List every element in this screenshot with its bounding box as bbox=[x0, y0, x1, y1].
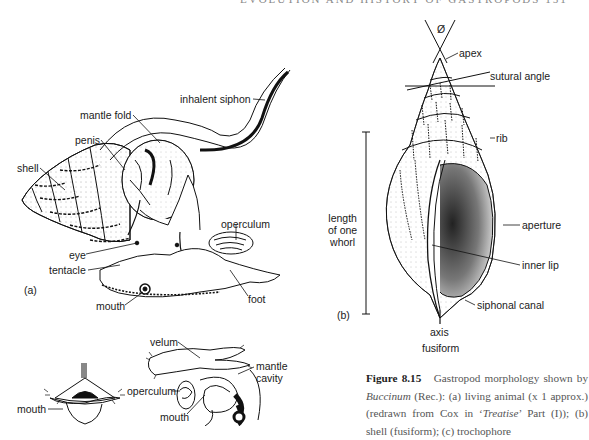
genus-name: Buccinum bbox=[366, 390, 411, 402]
label-mantle-fold: mantle fold bbox=[80, 109, 131, 121]
label-operculum-c: operculum bbox=[127, 385, 176, 397]
panel-b-label: (b) bbox=[337, 309, 350, 321]
label-operculum-a: operculum bbox=[221, 218, 270, 230]
inhalent-siphon-drawing bbox=[200, 72, 288, 150]
label-inhalent-siphon: inhalent siphon bbox=[180, 93, 251, 105]
label-velum: velum bbox=[150, 336, 178, 348]
label-apex: apex bbox=[459, 47, 482, 59]
label-length-of-one-whorl: length of one whorl bbox=[328, 212, 357, 248]
label-axis: axis bbox=[430, 326, 449, 338]
label-rib: rib bbox=[496, 132, 508, 144]
label-foot: foot bbox=[248, 293, 266, 305]
figure-number: Figure 8.15 bbox=[366, 372, 421, 384]
label-mouth-c-right: mouth bbox=[160, 411, 189, 423]
label-mouth-a: mouth bbox=[96, 300, 125, 312]
label-penis: penis bbox=[75, 134, 100, 146]
shell-drawing bbox=[22, 143, 130, 241]
panel-a-label: (a) bbox=[24, 284, 37, 296]
label-fusiform: fusiform bbox=[422, 342, 459, 354]
panel-b-shell bbox=[362, 20, 495, 324]
label-inner-lip: inner lip bbox=[522, 259, 559, 271]
foot-drawing bbox=[100, 249, 280, 297]
label-aperture: aperture bbox=[522, 219, 561, 231]
label-sutural-angle: sutural angle bbox=[490, 70, 550, 82]
label-mantle-cavity: mantle cavity bbox=[256, 360, 288, 384]
label-siphonal-canal: siphonal canal bbox=[477, 299, 544, 311]
label-mouth-c-left: mouth bbox=[17, 403, 46, 415]
label-eye: eye bbox=[69, 249, 86, 261]
source-title: Treatise bbox=[483, 407, 519, 419]
figure-caption: Figure 8.15 Gastropod morphology shown b… bbox=[366, 370, 588, 440]
label-angle-symbol: Ø bbox=[437, 23, 445, 35]
label-tentacle: tentacle bbox=[49, 264, 86, 276]
label-shell: shell bbox=[17, 162, 39, 174]
